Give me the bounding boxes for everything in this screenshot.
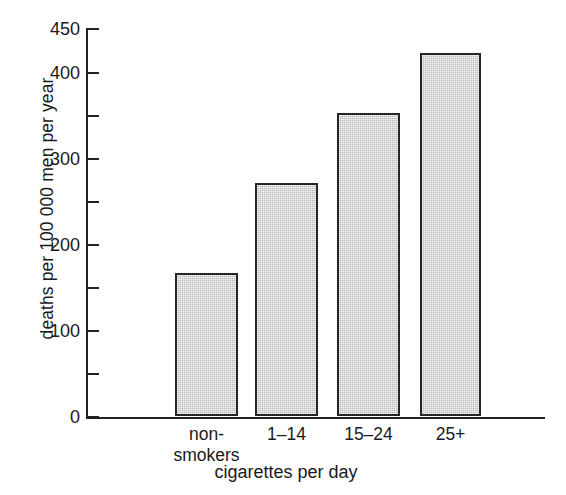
y-tick-label-300: 300 <box>50 149 80 170</box>
y-tick-minor-350 <box>88 115 99 117</box>
y-tick-label-100: 100 <box>50 321 80 342</box>
bar-1-14 <box>255 183 318 416</box>
y-tick-400: 400 <box>88 72 99 74</box>
y-tick-label-200: 200 <box>50 235 80 256</box>
y-tick-label-0: 0 <box>70 407 80 428</box>
y-tick-minor-250 <box>88 201 99 203</box>
x-axis-line <box>86 417 545 419</box>
plot-area: 0 100 200 300 400 450 non- smokers 1–14 … <box>86 28 545 418</box>
y-tick-label-400: 400 <box>50 63 80 84</box>
x-tick-label-25-plus: 25+ <box>400 424 501 445</box>
bar-25-plus <box>420 53 481 416</box>
bar-chart: deaths per 100 000 men per year 0 100 20… <box>0 0 566 495</box>
y-tick-0: 0 <box>88 416 99 418</box>
bar-non-smokers <box>175 273 238 416</box>
x-axis-title: cigarettes per day <box>86 462 486 483</box>
y-tick-300: 300 <box>88 158 99 160</box>
y-tick-label-450: 450 <box>50 19 80 40</box>
y-tick-minor-50 <box>88 373 99 375</box>
bar-15-24 <box>337 113 400 416</box>
y-tick-minor-150 <box>88 287 99 289</box>
y-tick-200: 200 <box>88 244 99 246</box>
y-tick-100: 100 <box>88 330 99 332</box>
y-tick-450: 450 <box>88 28 99 30</box>
y-axis-line <box>86 28 88 419</box>
